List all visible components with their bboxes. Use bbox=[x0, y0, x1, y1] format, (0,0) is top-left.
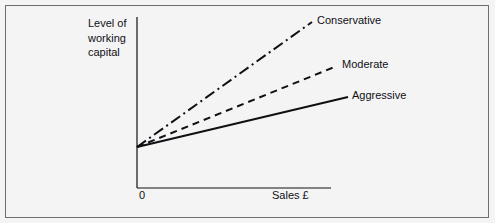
series-label-aggressive: Aggressive bbox=[352, 89, 406, 101]
chart-plot-area bbox=[0, 0, 495, 223]
origin-tick-label: 0 bbox=[139, 188, 145, 203]
series-line-conservative bbox=[137, 22, 312, 147]
x-axis-title: Sales £ bbox=[272, 188, 309, 203]
series-label-conservative: Conservative bbox=[317, 14, 381, 26]
figure-canvas: Level of working capital Sales £ 0 Conse… bbox=[0, 0, 495, 223]
series-label-moderate: Moderate bbox=[342, 58, 388, 70]
y-axis-title: Level of working capital bbox=[88, 16, 127, 60]
